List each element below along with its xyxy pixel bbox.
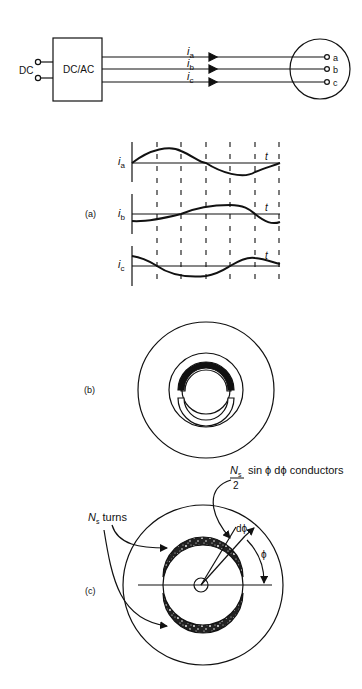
svg-text:Ns: Ns	[230, 464, 242, 478]
svg-text:ic: ic	[187, 70, 193, 85]
svg-text:ic: ic	[118, 258, 124, 273]
svg-text:ϕ: ϕ	[261, 549, 267, 560]
svg-text:a: a	[333, 53, 338, 63]
arrow-a-icon	[209, 53, 217, 61]
svg-text:(c): (c)	[85, 586, 96, 596]
svg-text:t: t	[265, 202, 269, 213]
panel-a-waveforms	[132, 142, 280, 286]
svg-text:(a): (a)	[85, 209, 96, 219]
dc-label: DC	[19, 65, 33, 76]
panel-b-label: (b)	[84, 385, 95, 395]
three-phase-figure: DC DC/AC ia ib ic a b c	[0, 0, 362, 689]
svg-text:b: b	[333, 65, 338, 75]
svg-text:2: 2	[233, 480, 239, 491]
panel-a-labels: (a) ia ib ic t t t	[85, 151, 269, 273]
arrow-b-icon	[209, 65, 217, 73]
turns-leader-lower	[104, 530, 167, 626]
svg-text:ia: ia	[118, 155, 125, 170]
svg-text:t: t	[265, 151, 269, 162]
dc-terminal-positive	[35, 59, 40, 64]
svg-text:dϕ: dϕ	[236, 523, 248, 534]
panel-c-winding	[104, 480, 283, 665]
phi-arc	[247, 540, 264, 583]
svg-text:c: c	[333, 78, 338, 88]
svg-text:ib: ib	[118, 207, 125, 222]
coil-side-filled	[178, 362, 234, 390]
inverter-circuit: DC DC/AC	[19, 38, 350, 101]
panel-b-cross-section	[138, 322, 274, 458]
svg-text:Ns turns: Ns turns	[88, 511, 127, 525]
svg-text:sin ϕ dϕ conductors: sin ϕ dϕ conductors	[248, 464, 344, 476]
arrow-c-icon	[209, 78, 217, 86]
dc-terminal-negative	[35, 75, 40, 80]
svg-text:t: t	[265, 250, 269, 261]
waveform-ia	[132, 148, 280, 175]
stator-outer	[138, 322, 274, 458]
converter-label: DC/AC	[63, 64, 94, 75]
